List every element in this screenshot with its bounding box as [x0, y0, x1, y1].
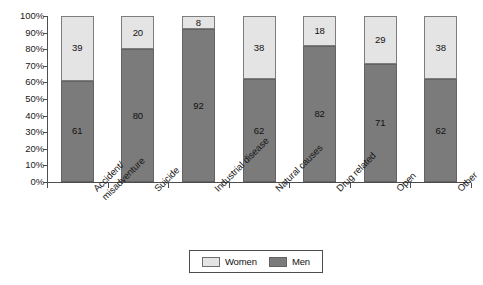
bar-segment-men: 61 — [61, 81, 94, 182]
bar-segment-women: 29 — [364, 16, 397, 64]
x-axis-label-line: Industrial disease — [212, 186, 220, 194]
x-axis-label-line: Open — [394, 186, 402, 194]
legend-entry: Women — [202, 256, 257, 267]
bar-value-label: 80 — [133, 111, 143, 121]
y-tick-label: 60% — [0, 76, 44, 88]
y-tick-mark — [43, 116, 48, 117]
x-tick-mark — [350, 183, 351, 188]
bar-value-label: 8 — [196, 18, 201, 28]
bar-segment-men: 92 — [182, 29, 215, 182]
bar-value-label: 71 — [375, 118, 385, 128]
y-tick-mark — [43, 66, 48, 67]
x-tick-mark — [471, 183, 472, 188]
plot-area: 613980209286238821871296238 — [47, 16, 471, 182]
bar-segment-men: 62 — [424, 79, 457, 182]
x-axis-label: Open — [394, 186, 402, 194]
y-tick-mark — [43, 149, 48, 150]
x-axis-label-line: Accident/ — [91, 186, 99, 194]
x-tick-mark — [410, 183, 411, 188]
y-tick-mark — [43, 33, 48, 34]
bar-segment-women: 18 — [303, 16, 336, 46]
bar-group: 6139 — [61, 16, 94, 182]
x-tick-mark — [47, 183, 48, 188]
bar-segment-women: 8 — [182, 16, 215, 29]
y-tick-label: 10% — [0, 159, 44, 171]
x-axis-label: Industrial disease — [212, 186, 220, 194]
y-tick-mark — [43, 132, 48, 133]
y-tick-mark — [43, 49, 48, 50]
legend-label: Women — [225, 256, 257, 267]
x-tick-mark — [168, 183, 169, 188]
bar-value-label: 29 — [375, 35, 385, 45]
y-tick-mark — [43, 165, 48, 166]
x-axis-label: Other — [455, 186, 463, 194]
y-tick-label: 40% — [0, 110, 44, 122]
y-tick-label: 80% — [0, 43, 44, 55]
bar-group: 928 — [182, 16, 215, 182]
y-axis: 100%90%80%70%60%50%40%30%20%10%0% — [0, 10, 44, 184]
y-tick-label: 100% — [0, 10, 44, 22]
x-axis-label-line: Natural causes — [273, 186, 281, 194]
x-tick-mark — [289, 183, 290, 188]
bar-value-label: 62 — [436, 126, 446, 136]
y-tick-label: 90% — [0, 27, 44, 39]
x-axis-labels: Accident/misadventureSuicideIndustrial d… — [0, 186, 483, 248]
y-tick-mark — [43, 99, 48, 100]
bar-value-label: 20 — [133, 28, 143, 38]
y-tick-mark — [43, 82, 48, 83]
bar-value-label: 39 — [72, 43, 82, 53]
y-tick-label: 70% — [0, 60, 44, 72]
legend-swatch-men — [269, 257, 287, 267]
x-axis-label-line: misadventure — [99, 194, 107, 202]
bar-group: 6238 — [424, 16, 457, 182]
bar-value-label: 92 — [193, 101, 203, 111]
stacked-bar-chart: 100%90%80%70%60%50%40%30%20%10%0% 613980… — [0, 0, 483, 285]
y-tick-mark — [43, 16, 48, 17]
x-tick-mark — [108, 183, 109, 188]
legend-entry: Men — [269, 256, 310, 267]
legend-label: Men — [292, 256, 310, 267]
bar-segment-women: 38 — [424, 16, 457, 79]
x-axis-label-line: Other — [455, 186, 463, 194]
x-axis-label: Accident/misadventure — [91, 186, 107, 202]
bar-value-label: 61 — [72, 126, 82, 136]
bar-value-label: 82 — [314, 109, 324, 119]
x-axis-label-line: Suicide — [152, 186, 160, 194]
bar-segment-women: 38 — [243, 16, 276, 79]
x-axis-label: Drug related — [334, 186, 342, 194]
x-tick-mark — [229, 183, 230, 188]
y-tick-label: 30% — [0, 126, 44, 138]
bar-segment-women: 39 — [61, 16, 94, 81]
x-axis-label: Suicide — [152, 186, 160, 194]
legend-swatch-women — [202, 257, 220, 267]
y-tick-label: 50% — [0, 93, 44, 105]
bar-segment-men: 62 — [243, 79, 276, 182]
bar-segment-women: 20 — [121, 16, 154, 49]
y-tick-label: 20% — [0, 143, 44, 155]
x-axis-label-line: Drug related — [334, 186, 342, 194]
chart-legend: WomenMen — [189, 250, 323, 273]
bar-value-label: 18 — [314, 26, 324, 36]
x-axis-label: Natural causes — [273, 186, 281, 194]
bar-value-label: 38 — [436, 43, 446, 53]
bar-value-label: 38 — [254, 43, 264, 53]
